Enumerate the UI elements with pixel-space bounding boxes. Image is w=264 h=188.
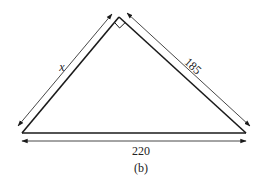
label-base: 220: [132, 144, 150, 158]
dimension-arrow-left: [18, 14, 112, 126]
right-triangle-diagram: x 185 220 (b): [0, 0, 264, 188]
figure-caption: (b): [134, 161, 148, 175]
triangle-right-side: [119, 17, 246, 133]
label-right-side: 185: [182, 55, 205, 77]
label-left-side: x: [58, 60, 65, 74]
right-angle-marker: [115, 22, 126, 28]
triangle: [22, 17, 246, 133]
triangle-left-side: [22, 17, 119, 133]
